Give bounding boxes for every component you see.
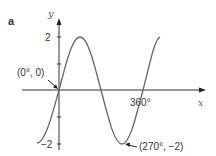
x-axis-arrow-icon xyxy=(199,88,206,93)
y-axis-label: y xyxy=(47,8,54,19)
origin-annotation: (0°, 0) xyxy=(17,67,44,78)
y-tick-label-2: 2 xyxy=(45,32,51,43)
y-axis-arrow-icon xyxy=(57,18,62,25)
min-annotation: (270°, −2) xyxy=(139,141,183,152)
min-arrow-icon xyxy=(125,143,130,148)
x-axis-label: x xyxy=(198,98,203,108)
y-tick-label-neg2: −2 xyxy=(41,139,53,150)
sine-chart: a y x 2 −2 360° (0°, 0) (270°, −2) xyxy=(0,0,216,156)
panel-label: a xyxy=(8,15,15,27)
